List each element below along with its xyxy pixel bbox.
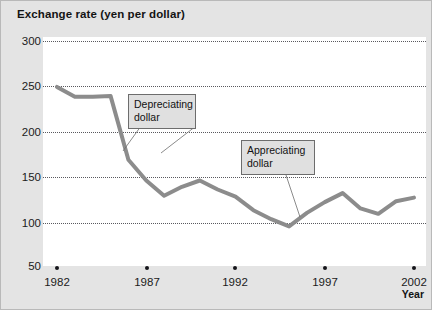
x-tick-dot-1982	[55, 266, 59, 270]
x-tick-label-1997: 1997	[312, 276, 338, 288]
chart-title: Exchange rate (yen per dollar)	[17, 8, 185, 20]
x-tick-dot-2002	[412, 266, 416, 270]
x-tick-label-1987: 1987	[134, 276, 160, 288]
x-tick-dot-1997	[323, 266, 327, 270]
x-tick-label-1992: 1992	[222, 276, 248, 288]
annotation-appreciating-dollar: Appreciating dollar	[241, 140, 315, 175]
chart-figure: Exchange rate (yen per dollar) 300 250 2…	[0, 0, 432, 310]
x-tick-dot-1987	[145, 266, 149, 270]
annotation-depreciating-dollar: Depreciating dollar	[128, 94, 196, 129]
x-tick-label-1982: 1982	[44, 276, 70, 288]
plot-area	[43, 37, 426, 266]
y-tick-label-150: 150	[7, 171, 41, 183]
y-tick-label-50: 50	[7, 260, 41, 272]
x-axis-title: Year	[402, 288, 424, 300]
y-tick-label-250: 250	[7, 80, 41, 92]
x-tick-dot-1992	[233, 266, 237, 270]
x-axis-ticks: 1982 1987 1992 1997 2002	[43, 266, 426, 310]
y-tick-label-100: 100	[7, 217, 41, 229]
y-tick-label-200: 200	[7, 126, 41, 138]
y-axis-tick-labels: 300 250 200 150 100 50	[1, 37, 41, 266]
x-tick-label-2002: 2002	[401, 276, 427, 288]
y-tick-label-300: 300	[7, 35, 41, 47]
data-series-line	[43, 37, 426, 266]
